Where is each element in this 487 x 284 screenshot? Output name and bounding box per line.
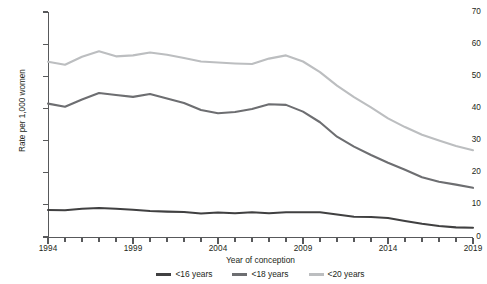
y-axis-title: Rate per 1,000 women <box>18 51 27 171</box>
x-tick-label: 2014 <box>368 244 408 253</box>
x-tick-2011 <box>336 238 337 242</box>
x-tick-2013 <box>370 238 371 242</box>
x-tick-1998 <box>115 238 116 242</box>
x-tick-2005 <box>234 238 235 242</box>
x-tick-label: 2019 <box>453 244 487 253</box>
series-line-20years <box>48 51 473 150</box>
x-tick-1999 <box>132 238 133 244</box>
legend-item-18years[interactable]: <18 years <box>232 270 288 279</box>
x-tick-2014 <box>387 238 388 244</box>
x-tick-label: 1994 <box>28 244 68 253</box>
x-axis-title: Year of conception <box>48 256 473 265</box>
x-tick-2001 <box>166 238 167 242</box>
x-tick-2002 <box>183 238 184 242</box>
x-tick-2007 <box>268 238 269 242</box>
x-tick-2019 <box>472 238 473 244</box>
x-tick-2000 <box>149 238 150 242</box>
series-line-16years <box>48 208 473 228</box>
legend-swatch-icon <box>232 273 247 276</box>
series-line-18years <box>48 93 473 188</box>
x-tick-1994 <box>47 238 48 244</box>
x-tick-1996 <box>81 238 82 242</box>
legend-label: <16 years <box>175 270 212 279</box>
x-tick-2008 <box>285 238 286 242</box>
legend-item-20years[interactable]: <20 years <box>309 270 365 279</box>
series-lines <box>48 12 473 237</box>
x-tick-label: 2004 <box>198 244 238 253</box>
plot-area <box>48 12 473 237</box>
x-tick-1997 <box>98 238 99 242</box>
x-tick-2003 <box>200 238 201 242</box>
legend-swatch-icon <box>309 273 324 276</box>
x-tick-2015 <box>404 238 405 242</box>
legend-swatch-icon <box>156 273 171 276</box>
x-tick-2006 <box>251 238 252 242</box>
x-tick-2010 <box>319 238 320 242</box>
x-tick-label: 1999 <box>113 244 153 253</box>
legend-label: <18 years <box>251 270 288 279</box>
legend-label: <20 years <box>328 270 365 279</box>
x-tick-2004 <box>217 238 218 244</box>
x-tick-2012 <box>353 238 354 242</box>
x-tick-2016 <box>421 238 422 242</box>
x-tick-2017 <box>438 238 439 242</box>
x-tick-label: 2009 <box>283 244 323 253</box>
x-tick-1995 <box>64 238 65 242</box>
chart-legend: <16 years<18 years<20 years <box>48 270 473 279</box>
x-tick-2018 <box>455 238 456 242</box>
x-axis-line <box>48 237 473 238</box>
x-tick-2009 <box>302 238 303 244</box>
legend-item-16years[interactable]: <16 years <box>156 270 212 279</box>
